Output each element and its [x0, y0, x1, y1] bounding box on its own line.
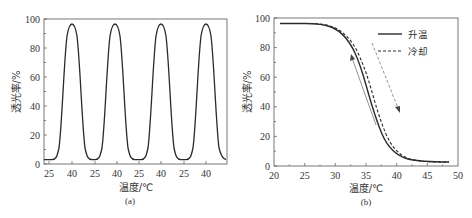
plot-b-ytick-20: 20	[260, 131, 270, 142]
plot-b-legend: 升温 冷却	[378, 29, 428, 57]
plot-a-xlabel: 温度/℃	[119, 181, 154, 193]
plot-a-ytick-60: 60	[30, 72, 40, 83]
plot-a-x-ticks	[49, 161, 206, 164]
plot-b-caption: (b)	[361, 197, 372, 207]
plot-a-xtick: 25	[179, 168, 189, 179]
plot-a-ytick-20: 20	[30, 130, 40, 141]
plot-a-xtick: 40	[201, 168, 211, 179]
plot-b-xtick-25: 25	[300, 170, 310, 181]
plot-b-xtick-45: 45	[422, 170, 432, 181]
figure: 0 20 40 60 80 100 25 40 25 40 25 40 25 4…	[0, 0, 472, 218]
plot-a-ytick-40: 40	[30, 101, 40, 112]
plot-b-ytick-100: 100	[255, 13, 270, 24]
plot-a-xtick: 25	[134, 168, 144, 179]
plot-b-xlabel: 温度/℃	[349, 182, 384, 194]
plot-b-x-ticks	[289, 163, 442, 166]
plot-a-y-ticks	[44, 19, 47, 164]
plot-b-xtick-40: 40	[392, 170, 402, 181]
plot-b-xtick-50: 50	[453, 170, 463, 181]
plot-a-caption: (a)	[125, 196, 135, 206]
plot-b-ytick-80: 80	[260, 42, 270, 53]
plot-b-y-ticks	[274, 18, 277, 166]
plot-a-xtick: 25	[44, 168, 54, 179]
plot-b-xtick-30: 30	[330, 170, 340, 181]
panel-b: 0 20 40 60 80 100 20 25 30 35 40 45 50 透…	[241, 13, 463, 208]
plot-b-xtick-20: 20	[269, 170, 279, 181]
plot-b-ytick-60: 60	[260, 72, 270, 83]
plot-b-ytick-40: 40	[260, 101, 270, 112]
plot-a-ylabel: 透光率/%	[10, 71, 22, 114]
plot-a-ytick-100: 100	[25, 14, 40, 25]
legend-label-heating: 升温	[408, 29, 428, 40]
plot-a-frame	[44, 19, 227, 164]
plot-a-ytick-0: 0	[35, 159, 40, 170]
plot-a-xtick: 25	[90, 168, 100, 179]
plot-a-xtick: 40	[67, 168, 77, 179]
plot-a-curve	[44, 24, 226, 160]
plot-b-xtick-35: 35	[361, 170, 371, 181]
plot-b-ylabel: 透光率/%	[241, 71, 253, 114]
cooling-arrow-icon	[372, 43, 400, 113]
legend-label-cooling: 冷却	[408, 46, 428, 57]
plot-b-frame	[274, 18, 458, 166]
plot-a-ytick-80: 80	[30, 43, 40, 54]
panel-a: 0 20 40 60 80 100 25 40 25 40 25 40 25 4…	[10, 14, 227, 207]
plot-a-xtick: 40	[156, 168, 166, 179]
plot-a-xtick: 40	[112, 168, 122, 179]
